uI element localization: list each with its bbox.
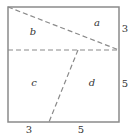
- dimension-bottom-left: 3: [26, 125, 32, 135]
- dimension-right-lower: 5: [122, 79, 128, 89]
- dimension-right-upper: 3: [122, 24, 128, 34]
- outer-square: [8, 7, 119, 122]
- dimension-bottom-right: 5: [78, 125, 84, 135]
- region-label-d: d: [89, 78, 95, 88]
- slanted-dashed-line: [49, 50, 78, 122]
- region-label-a: a: [94, 18, 100, 28]
- region-label-b: b: [30, 27, 36, 37]
- region-label-c: c: [31, 78, 37, 88]
- diagram-canvas: [0, 0, 133, 138]
- diagonal-dashed-line: [8, 7, 119, 50]
